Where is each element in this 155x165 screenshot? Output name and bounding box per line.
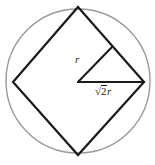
radius-label: r [75, 54, 79, 65]
half-diagonal-label: √2r [95, 85, 111, 97]
geometry-canvas [0, 0, 155, 165]
radius-segment [78, 47, 112, 82]
geometry-figure: r √2r [0, 0, 155, 165]
half-diagonal-variable: r [107, 85, 111, 97]
